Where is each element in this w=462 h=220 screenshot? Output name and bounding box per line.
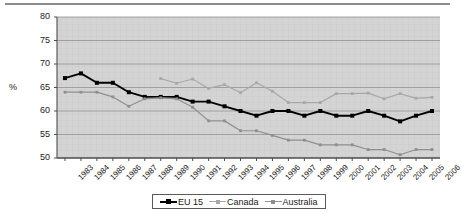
y-tick-label: 70: [28, 58, 50, 68]
legend-label-australia: Australia: [283, 197, 318, 207]
legend-item-canada: Canada: [209, 197, 259, 207]
y-tick-label: 60: [28, 105, 50, 115]
legend-item-eu15: EU 15: [160, 197, 203, 207]
legend-label-canada: Canada: [227, 197, 259, 207]
chart-legend: EU 15 Canada Australia: [152, 194, 326, 209]
legend-marker-eu15: [160, 197, 177, 206]
legend-marker-australia: [265, 197, 282, 206]
y-tick-label: 80: [28, 11, 50, 21]
y-tick-label: 65: [28, 82, 50, 92]
y-tick-label: 50: [28, 152, 50, 162]
legend-marker-canada: [209, 197, 226, 206]
y-tick-label: 75: [28, 35, 50, 45]
y-tick-label: 55: [28, 129, 50, 139]
legend-item-australia: Australia: [265, 197, 318, 207]
legend-label-eu15: EU 15: [178, 197, 203, 207]
